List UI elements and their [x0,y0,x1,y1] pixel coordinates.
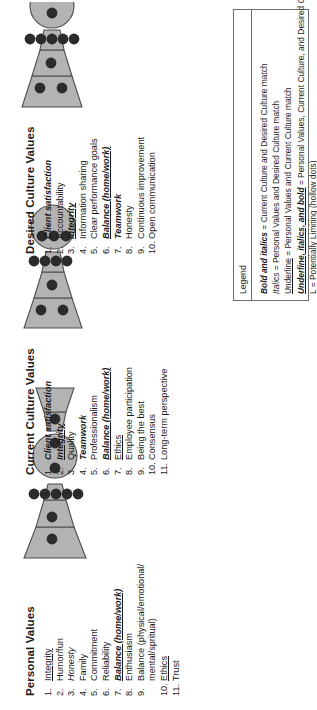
legend-line: Underline, italics, and bold = Personal … [295,16,307,294]
list-item-number: 2. [55,462,67,475]
panel-title: Desired Culture Values [24,127,36,254]
list-item-number: 8. [124,241,136,254]
list-item-label: Continuous improvement [136,137,146,239]
value-dot [58,305,69,316]
list-item-label: Ethics [113,435,123,460]
list-item-number: 6. [101,462,113,475]
diagram-canvas: Personal Values 1.Integrity2.Humor/fun3.… [0,0,317,710]
list-item-label: Employee participation [124,367,134,460]
list-item-label: mental/spritual) [147,618,157,681]
legend-key: L [308,290,317,294]
legend-description: = Potentially Limiting (hollow dots) [308,160,317,289]
legend-line: L = Potentially Limiting (hollow dots) [307,16,317,294]
list-item-number: 10. [147,241,159,254]
value-dot [25,34,36,45]
list-item-label: Trust [171,660,181,681]
panel-title: Personal Values [24,564,36,696]
legend-key: Italics [271,273,281,294]
legend-description: = Current Culture and Desired Culture ma… [259,63,269,232]
list-item: 8.Employee participation [124,348,136,475]
legend-description: = Personal Values, Current Culture, and … [296,0,306,187]
value-dot [69,34,80,45]
value-dot [29,489,40,500]
value-dot [51,489,62,500]
value-dot [73,489,84,500]
list-item-label: Balance (home/work) [113,589,123,681]
legend-description: = Personal Values and Current Culture ma… [283,87,293,258]
list-item-number: 10. [159,683,171,696]
value-dot [36,34,47,45]
list-item: 9.Being the best [136,348,148,475]
list-item-label: Integrity [43,648,53,681]
list-item-label: Professionalism [89,395,99,460]
legend-description: = Personal Values and Desired Culture ma… [271,101,281,273]
desired-culture-diagram [20,2,94,110]
values-list-desired: 1.Client satisfaction2.Accountability3.I… [43,127,159,254]
list-item-label: Client satisfaction [43,381,53,460]
list-item-number: 3. [66,241,78,254]
list-item-number: 11. [159,462,171,475]
panel-current-culture-values: Current Culture Values 1.Client satisfac… [24,348,171,475]
list-item-number: 6. [101,241,113,254]
values-list-personal: 1.Integrity2.Humor/fun3.Honesty4.Family5… [43,564,182,696]
value-dot [47,534,58,545]
list-item: 2.Integrity [55,348,67,475]
list-item-label: Balance (home/work) [101,147,111,239]
list-item-label: Commitment [89,629,99,681]
value-dot [62,256,73,267]
list-item-number: 1. [43,241,55,254]
list-item: 3.Honesty [66,564,78,696]
legend-lines: Bold and italics = Current Culture and D… [252,10,317,300]
list-item-label: Integrity [66,203,76,239]
list-item-label: Clear performance goals [89,138,99,239]
list-item-number: 9. [136,683,148,696]
value-dot [40,256,51,267]
list-item-label: Accountability [55,182,65,239]
list-item: 6.Reliability [101,564,113,696]
panel-desired-culture-values: Desired Culture Values 1.Client satisfac… [24,127,159,254]
list-item: 8.Honesty [124,127,136,254]
list-item-number: 5. [89,683,101,696]
list-item: 6.Balance (home/work) [101,127,113,254]
list-item: 10.Consensus [147,348,159,475]
value-dot [47,34,58,45]
list-item: mental/spritual) [147,564,159,696]
list-item-number: 9. [136,462,148,475]
list-item: 2.Humor/fun [55,564,67,696]
list-item-label: Ethics [159,656,169,681]
list-item-number: 2. [55,241,67,254]
legend: Legend Bold and italics = Current Cultur… [233,9,309,301]
list-item-number: 3. [66,462,78,475]
list-item-label: Integrity [55,424,65,460]
list-item-label: Being the best [136,401,146,460]
list-item-number: 4. [78,462,90,475]
list-item-label: Quality [66,431,76,460]
legend-key: Underline [283,258,293,294]
list-item-number: 2. [55,683,67,696]
value-dot [29,256,40,267]
list-item-label: Teamwork [78,415,88,460]
value-dot [58,34,69,45]
list-item-label: Family [78,654,88,681]
values-list-current: 1.Client satisfaction2.Integrity3.Qualit… [43,348,171,475]
list-item: 1.Integrity [43,564,55,696]
list-item-label: Balance (home/work) [101,368,111,460]
list-item: 10.Open communication [147,127,159,254]
list-item-label: Information sharing [78,160,88,239]
legend-line: Underline = Personal Values and Current … [282,16,294,294]
list-item-label: Honesty [124,205,134,239]
list-item: 9.Balance (physical/emotional/ [136,564,148,696]
legend-line: Bold and italics = Current Culture and D… [258,16,270,294]
value-dot [46,58,57,69]
list-item: 1.Client satisfaction [43,127,55,254]
value-dot [36,305,47,316]
list-item-number: 1. [43,462,55,475]
list-item: 4.Teamwork [78,348,90,475]
list-item-label: Enthusiasm [124,633,134,681]
list-item: 6.Balance (home/work) [101,348,113,475]
value-dot [47,512,58,523]
list-item-number: 7. [113,462,125,475]
list-item-label: Long-term perspective [159,369,169,460]
panel-title: Current Culture Values [24,348,36,475]
list-item: 7.Balance (home/work) [113,564,125,696]
